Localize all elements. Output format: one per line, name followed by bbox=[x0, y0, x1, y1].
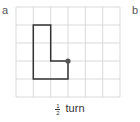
fraction-denominator: 2 bbox=[56, 110, 59, 116]
grid bbox=[16, 7, 120, 97]
rotation-caption: 1 2 turn bbox=[0, 102, 140, 116]
caption-text: turn bbox=[66, 102, 85, 114]
center-of-rotation-dot bbox=[65, 58, 70, 63]
fraction: 1 2 bbox=[55, 103, 60, 116]
